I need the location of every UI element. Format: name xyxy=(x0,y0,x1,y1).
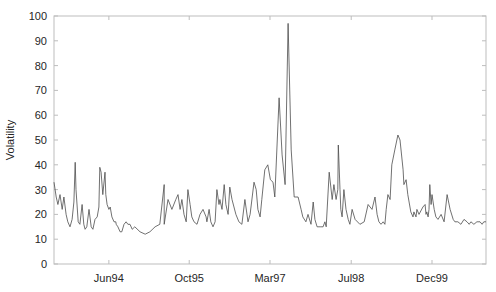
y-axis-title: Volatility xyxy=(4,119,16,160)
y-tick-label: 0 xyxy=(41,258,47,270)
y-tick-label: 80 xyxy=(35,60,47,72)
x-tick-label: Jul98 xyxy=(338,272,364,284)
y-tick-label: 100 xyxy=(29,10,47,22)
y-tick-label: 10 xyxy=(35,233,47,245)
x-tick-label: Mar97 xyxy=(254,272,285,284)
y-tick-label: 20 xyxy=(35,208,47,220)
volatility-line-chart: 0102030405060708090100 Jun94Oct95Mar97Ju… xyxy=(0,0,496,292)
y-tick-label: 30 xyxy=(35,184,47,196)
x-tick-label: Jun94 xyxy=(94,272,124,284)
y-tick-label: 50 xyxy=(35,134,47,146)
x-tick-label: Dec99 xyxy=(416,272,448,284)
y-tick-label: 90 xyxy=(35,35,47,47)
plot-frame xyxy=(54,16,486,264)
y-tick-label: 70 xyxy=(35,84,47,96)
y-tick-label: 60 xyxy=(35,109,47,121)
y-tick-label: 40 xyxy=(35,159,47,171)
x-tick-label: Oct95 xyxy=(175,272,204,284)
